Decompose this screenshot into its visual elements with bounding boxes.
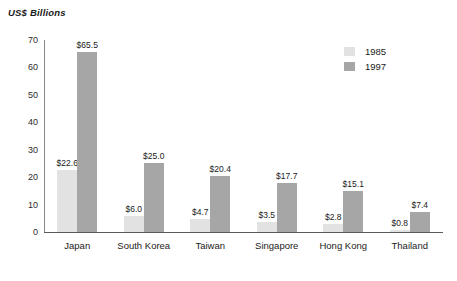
bar-slot: $4.7 (190, 40, 210, 232)
bar-value-label: $65.5 (77, 40, 98, 50)
bar-slot: $17.7 (277, 40, 297, 232)
x-axis-category-label: Thailand (377, 240, 444, 251)
y-tick-label: 0 (33, 227, 38, 237)
bar-pair: $6.0$25.0 (111, 40, 178, 232)
bar-slot: $20.4 (210, 40, 230, 232)
y-tick-label: 10 (28, 200, 38, 210)
bar[interactable]: $22.6 (57, 170, 77, 232)
bar-group: $4.7$20.4 (177, 40, 244, 232)
y-tick-label: 40 (28, 117, 38, 127)
bar-pair: $0.8$7.4 (377, 40, 444, 232)
bar[interactable]: $17.7 (277, 183, 297, 232)
legend-item[interactable]: 1997 (344, 59, 386, 74)
bar-value-label: $7.4 (411, 200, 428, 210)
bar-slot: $0.8 (390, 40, 410, 232)
bar-slot: $25.0 (144, 40, 164, 232)
bar-value-label: $4.7 (192, 207, 209, 217)
bar[interactable]: $65.5 (77, 52, 97, 232)
bar-value-label: $0.8 (391, 218, 408, 228)
bar-slot: $65.5 (77, 40, 97, 232)
bar-group: $0.8$7.4 (377, 40, 444, 232)
x-axis-category-label: Japan (44, 240, 111, 251)
bar[interactable]: $20.4 (210, 176, 230, 232)
bar-group: $22.6$65.5 (44, 40, 111, 232)
chart-legend: 19851997 (344, 44, 386, 74)
bar[interactable]: $6.0 (124, 216, 144, 232)
y-tick-label: 70 (28, 35, 38, 45)
y-tick-label: 60 (28, 62, 38, 72)
bar-pair: $4.7$20.4 (177, 40, 244, 232)
bar-pair: $3.5$17.7 (244, 40, 311, 232)
legend-label: 1985 (365, 46, 386, 57)
bar-slot: $3.5 (257, 40, 277, 232)
bar-slot: $6.0 (124, 40, 144, 232)
y-tick-label: 20 (28, 172, 38, 182)
x-axis-category-label: Hong Kong (310, 240, 377, 251)
y-tick-label: 30 (28, 145, 38, 155)
bar-pair: $22.6$65.5 (44, 40, 111, 232)
bar-group: $3.5$17.7 (244, 40, 311, 232)
x-axis-category-label: Singapore (244, 240, 311, 251)
bar-value-label: $3.5 (258, 210, 275, 220)
bar-slot: $22.6 (57, 40, 77, 232)
legend-label: 1997 (365, 61, 386, 72)
bar-group: $6.0$25.0 (111, 40, 178, 232)
bar-slot: $2.8 (323, 40, 343, 232)
bar-value-label: $15.1 (343, 179, 364, 189)
bar[interactable]: $4.7 (190, 219, 210, 232)
bar-value-label: $25.0 (143, 151, 164, 161)
bar-slot: $7.4 (410, 40, 430, 232)
bar[interactable]: $7.4 (410, 212, 430, 232)
y-axis-title: US$ Billions (8, 7, 66, 18)
x-axis-category-labels: JapanSouth KoreaTaiwanSingaporeHong Kong… (44, 240, 443, 251)
legend-swatch-icon (344, 62, 355, 71)
bar-value-label: $2.8 (325, 212, 342, 222)
legend-swatch-icon (344, 47, 355, 56)
x-axis-category-label: Taiwan (177, 240, 244, 251)
y-tick-label: 50 (28, 90, 38, 100)
bar[interactable]: $25.0 (144, 163, 164, 232)
bar-value-label: $17.7 (276, 171, 297, 181)
bar[interactable]: $3.5 (257, 222, 277, 232)
bar-value-label: $22.6 (57, 158, 78, 168)
bar-chart: US$ Billions 706050403020100 $22.6$65.5$… (0, 0, 457, 281)
x-axis-line (44, 232, 443, 233)
bar[interactable]: $2.8 (323, 224, 343, 232)
legend-item[interactable]: 1985 (344, 44, 386, 59)
bar-value-label: $6.0 (125, 204, 142, 214)
bar[interactable]: $0.8 (390, 230, 410, 232)
x-axis-category-label: South Korea (111, 240, 178, 251)
bar[interactable]: $15.1 (343, 191, 363, 232)
bar-value-label: $20.4 (210, 164, 231, 174)
